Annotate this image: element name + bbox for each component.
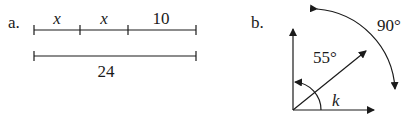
total-label: 24	[98, 62, 116, 81]
figure-b: b. 55° 90° k	[251, 9, 401, 110]
segment-label-3: 10	[153, 9, 170, 28]
outer-angle-label: 90°	[377, 16, 401, 35]
inner-angle-label: 55°	[313, 48, 337, 67]
figure-b-label: b.	[251, 13, 264, 32]
figure-a: a. x x 10 24	[8, 9, 196, 81]
segment-label-1: x	[52, 9, 61, 28]
figure-canvas: a. x x 10 24 b. 55° 90° k	[0, 0, 407, 119]
figure-a-label: a.	[8, 13, 20, 32]
segment-label-2: x	[99, 9, 108, 28]
unknown-angle-label: k	[332, 91, 340, 110]
total-line	[34, 51, 196, 61]
